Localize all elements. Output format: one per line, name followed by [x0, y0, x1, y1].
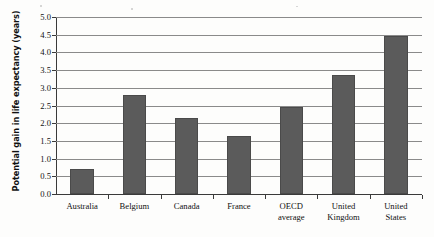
- x-axis-tick: [422, 195, 423, 199]
- gridline: [56, 17, 422, 18]
- y-axis-tick: [52, 141, 56, 142]
- gridline: [56, 52, 422, 53]
- category-label-line1: Australia: [66, 201, 98, 211]
- x-axis-category-label: UnitedKingdom: [317, 201, 369, 222]
- x-axis-tick: [370, 195, 371, 199]
- category-label-line1: Canada: [174, 201, 200, 211]
- y-axis-tick: [52, 194, 56, 195]
- y-axis-tick: [52, 159, 56, 160]
- x-axis-baseline: [56, 194, 422, 195]
- category-label-line2: average: [265, 212, 317, 223]
- y-axis-tick-label: 0.0: [40, 189, 51, 199]
- x-axis-tick: [265, 195, 266, 199]
- y-axis-tick: [52, 70, 56, 71]
- bar: [175, 118, 199, 194]
- bar: [123, 95, 147, 194]
- category-label-line2: States: [370, 212, 422, 223]
- y-axis-tick-label: 1.5: [40, 136, 51, 146]
- x-axis-tick: [108, 195, 109, 199]
- y-axis-tick-label: 3.0: [40, 83, 51, 93]
- bar: [227, 136, 251, 194]
- x-axis-tick: [161, 195, 162, 199]
- bar: [384, 36, 408, 194]
- plot-area: 5.04.54.03.53.02.52.01.51.00.50.0Austral…: [56, 17, 422, 194]
- scan-artifact: [131, 8, 133, 10]
- x-axis-category-label: Canada: [161, 201, 213, 212]
- gridline: [56, 123, 422, 124]
- gridline: [56, 35, 422, 36]
- y-axis-tick: [52, 176, 56, 177]
- y-axis-tick-label: 2.5: [40, 101, 51, 111]
- scan-artifact: [40, 5, 42, 7]
- gridline: [56, 70, 422, 71]
- x-axis-category-label: Belgium: [108, 201, 160, 212]
- category-label-line1: OECD: [280, 201, 303, 211]
- y-axis-tick-label: 2.0: [40, 118, 51, 128]
- y-axis-title: Potential gain in life expectancy (years…: [11, 8, 21, 194]
- y-axis-tick: [52, 88, 56, 89]
- category-label-line1: France: [227, 201, 250, 211]
- bar: [70, 169, 94, 194]
- bar: [280, 107, 304, 194]
- y-axis-tick: [52, 35, 56, 36]
- y-axis-tick-label: 1.0: [40, 154, 51, 164]
- y-axis-tick-label: 0.5: [40, 171, 51, 181]
- x-axis-category-label: Australia: [56, 201, 108, 212]
- category-label-line1: United: [384, 201, 407, 211]
- y-axis-tick: [52, 123, 56, 124]
- y-axis-tick-label: 4.5: [40, 30, 51, 40]
- y-axis-tick-label: 4.0: [40, 47, 51, 57]
- bar-chart: Potential gain in life expectancy (years…: [0, 0, 434, 237]
- category-label-line1: United: [332, 201, 355, 211]
- y-axis-tick-label: 5.0: [40, 12, 51, 22]
- y-axis-tick: [52, 106, 56, 107]
- bar: [332, 75, 356, 194]
- y-axis-tick-label: 3.5: [40, 65, 51, 75]
- y-axis-tick: [52, 17, 56, 18]
- x-axis-category-label: OECDaverage: [265, 201, 317, 222]
- x-axis-tick: [213, 195, 214, 199]
- y-axis-tick: [52, 52, 56, 53]
- category-label-line1: Belgium: [120, 201, 150, 211]
- gridline: [56, 88, 422, 89]
- x-axis-category-label: France: [213, 201, 265, 212]
- x-axis-tick: [317, 195, 318, 199]
- gridline: [56, 106, 422, 107]
- x-axis-category-label: UnitedStates: [370, 201, 422, 222]
- category-label-line2: Kingdom: [317, 212, 369, 223]
- scan-artifact: [296, 6, 298, 7]
